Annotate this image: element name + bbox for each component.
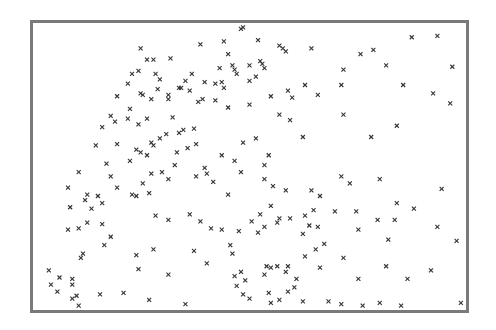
data-point-x-marker (292, 285, 296, 289)
data-point-x-marker (222, 86, 226, 90)
data-point-x-marker (235, 284, 239, 288)
data-point-x-marker (228, 243, 232, 247)
data-point-x-marker (435, 225, 439, 229)
data-point-x-marker (301, 299, 305, 303)
data-point-x-marker (194, 142, 198, 146)
data-point-x-marker (194, 174, 198, 178)
data-point-x-marker (166, 93, 170, 97)
data-point-x-marker (269, 266, 273, 270)
data-point-x-marker (248, 103, 252, 107)
data-point-x-marker (147, 191, 151, 195)
data-point-x-marker (230, 252, 234, 256)
data-point-x-marker (175, 150, 179, 154)
data-point-x-marker (205, 172, 209, 176)
data-point-x-marker (83, 198, 87, 202)
data-point-x-marker (173, 163, 177, 167)
data-point-x-marker (192, 127, 196, 131)
data-point-x-marker (90, 207, 94, 211)
data-point-x-marker (371, 48, 375, 52)
data-point-x-marker (307, 224, 311, 228)
data-point-x-marker (81, 252, 85, 256)
data-point-x-marker (401, 83, 405, 87)
data-point-x-marker (141, 181, 145, 185)
data-point-x-marker (248, 63, 252, 67)
data-point-x-marker (147, 298, 151, 302)
data-point-x-marker (109, 235, 113, 239)
data-point-x-marker (288, 216, 292, 220)
data-point-x-marker (269, 301, 273, 305)
data-point-x-marker (354, 209, 358, 213)
data-point-x-marker (395, 124, 399, 128)
data-point-x-marker (431, 91, 435, 95)
data-point-x-marker (203, 166, 207, 170)
data-point-x-marker (66, 186, 70, 190)
data-point-x-marker (130, 193, 134, 197)
data-point-x-marker (196, 100, 200, 104)
data-point-x-marker (85, 193, 89, 197)
data-point-x-marker (262, 273, 266, 277)
data-point-x-marker (303, 254, 307, 258)
data-point-x-marker (109, 174, 113, 178)
data-point-x-marker (256, 38, 260, 42)
data-point-x-marker (164, 132, 168, 136)
data-point-x-marker (213, 98, 217, 102)
data-point-x-marker (256, 231, 260, 235)
data-point-x-marker (233, 68, 237, 72)
data-point-x-marker (277, 216, 281, 220)
data-point-x-marker (309, 188, 313, 192)
data-point-x-marker (405, 277, 409, 281)
data-point-x-marker (130, 72, 134, 76)
data-point-x-marker (314, 247, 318, 251)
data-point-x-marker (171, 115, 175, 119)
data-point-x-marker (220, 153, 224, 157)
data-point-x-marker (318, 194, 322, 198)
data-point-x-marker (134, 194, 138, 198)
data-point-x-marker (149, 172, 153, 176)
data-point-x-marker (158, 77, 162, 81)
data-point-x-marker (410, 35, 414, 39)
data-point-x-marker (192, 249, 196, 253)
data-point-x-marker (455, 239, 459, 243)
data-point-x-marker (277, 298, 281, 302)
data-point-x-marker (262, 163, 266, 167)
data-point-x-marker (450, 65, 454, 69)
data-point-x-marker (186, 146, 190, 150)
data-point-x-marker (395, 201, 399, 205)
data-point-x-marker (284, 49, 288, 53)
data-point-x-marker (201, 97, 205, 101)
data-point-x-marker (275, 264, 279, 268)
data-point-x-marker (233, 274, 237, 278)
data-point-x-marker (211, 180, 215, 184)
data-point-x-marker (303, 214, 307, 218)
data-point-x-marker (70, 297, 74, 301)
data-point-x-marker (258, 212, 262, 216)
data-point-x-marker (226, 193, 230, 197)
data-point-x-marker (156, 87, 160, 91)
data-point-x-marker (136, 69, 140, 73)
data-point-x-marker (356, 277, 360, 281)
data-point-x-marker (128, 159, 132, 163)
data-point-x-marker (166, 273, 170, 277)
data-point-x-marker (100, 201, 104, 205)
data-point-x-marker (339, 302, 343, 306)
data-point-x-marker (286, 290, 290, 294)
data-point-x-marker (378, 177, 382, 181)
data-point-x-marker (70, 277, 74, 281)
data-point-x-marker (237, 229, 241, 233)
data-point-x-marker (267, 291, 271, 295)
data-point-x-marker (459, 301, 463, 305)
data-point-x-marker (77, 170, 81, 174)
data-point-x-marker (158, 136, 162, 140)
data-point-x-marker (134, 253, 138, 257)
data-point-x-marker (384, 264, 388, 268)
data-point-x-marker (440, 187, 444, 191)
data-point-x-marker (220, 228, 224, 232)
data-point-x-marker (145, 117, 149, 121)
data-point-x-marker (248, 297, 252, 301)
data-point-x-marker (284, 188, 288, 192)
data-point-x-marker (94, 143, 98, 147)
data-point-x-marker (102, 243, 106, 247)
data-point-x-marker (115, 186, 119, 190)
data-point-x-marker (151, 58, 155, 62)
data-point-x-marker (318, 266, 322, 270)
